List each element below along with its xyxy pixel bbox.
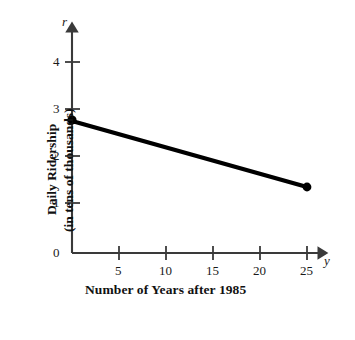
chart-figure: r y 4 3 2 1 0 5 10 15 20 25 Number of Ye…: [0, 0, 355, 340]
x-axis-title: Number of Years after 1985: [85, 283, 246, 297]
y-axis-title-line1: Daily Ridership: [45, 124, 59, 215]
origin-label-0: 0: [53, 246, 60, 259]
y-axis-variable-label: r: [62, 15, 67, 28]
x-tick-label-10: 10: [159, 264, 172, 277]
x-axis-variable-label: y: [324, 254, 330, 267]
data-line-segment: [72, 121, 307, 187]
x-tick-label-25: 25: [300, 264, 313, 277]
data-point-end: [303, 183, 312, 192]
x-tick-label-5: 5: [115, 264, 122, 277]
y-axis-title-line2: (in tens of thousands): [62, 109, 76, 232]
x-tick-label-20: 20: [253, 264, 266, 277]
x-tick-label-15: 15: [206, 264, 219, 277]
y-tick-label-4: 4: [53, 55, 60, 68]
y-tick-label-3: 3: [53, 102, 60, 115]
